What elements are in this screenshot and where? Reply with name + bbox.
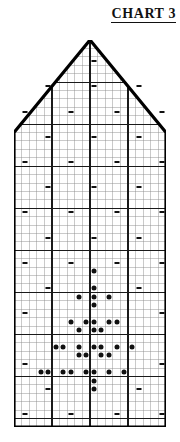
chart-grid-container (14, 40, 166, 427)
chart-page: CHART 3 (0, 0, 180, 442)
page-title: CHART 3 (111, 6, 176, 23)
chart-grid (14, 40, 166, 427)
